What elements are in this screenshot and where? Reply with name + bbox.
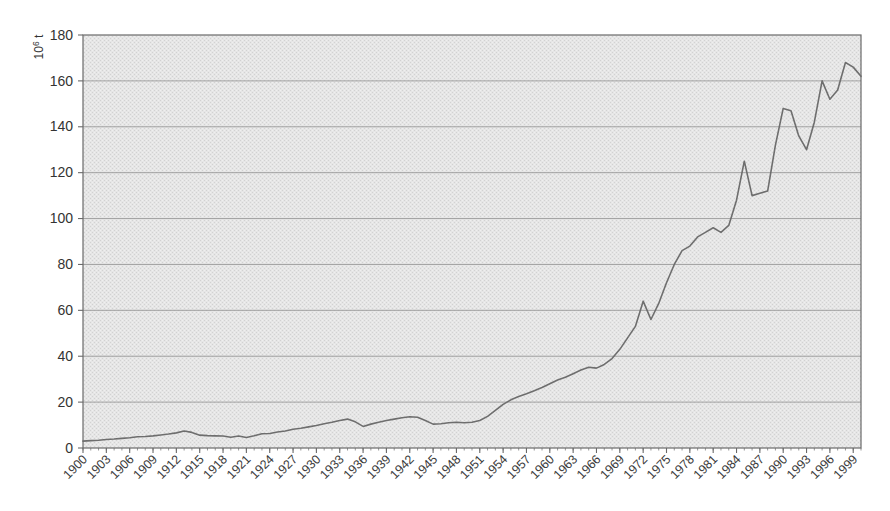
y-axis-tick-label: 180 [50, 27, 74, 43]
line-chart: 020406080100120140160180 190019031906190… [0, 0, 890, 511]
y-axis-tick-label: 20 [57, 394, 73, 410]
svg-text:106 t: 106 t [31, 34, 46, 59]
y-axis-tick-label: 120 [50, 164, 74, 180]
y-axis-title: 106 t [31, 34, 46, 59]
y-axis-tick-label: 160 [50, 73, 74, 89]
y-axis-title-base: 10 [32, 46, 46, 60]
plot-area-background [83, 35, 861, 448]
y-axis-tick-label: 60 [57, 302, 73, 318]
y-axis-tick-label: 0 [65, 440, 73, 456]
y-axis-tick-label: 80 [57, 256, 73, 272]
y-axis-title-unit: t [32, 34, 46, 41]
y-axis-tick-label: 100 [50, 210, 74, 226]
y-axis-tick-label: 140 [50, 118, 74, 134]
y-axis-tick-label: 40 [57, 348, 73, 364]
chart-container: 020406080100120140160180 190019031906190… [0, 0, 890, 511]
